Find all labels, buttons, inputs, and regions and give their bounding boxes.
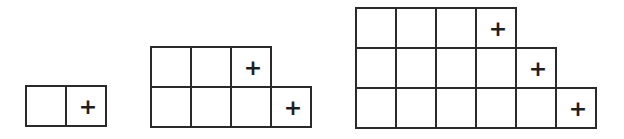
grid-cell: + [475,7,517,49]
grid-cell [355,87,397,129]
plus-icon: + [244,57,262,79]
grid-cell: + [515,47,557,89]
grid-cell [355,7,397,49]
grid-cell [435,7,477,49]
grid-cell [190,86,232,128]
grid-cell [230,86,272,128]
grid-cell [435,87,477,129]
grid-cell [435,47,477,89]
grid-cell [395,47,437,89]
grid-cell [150,86,192,128]
grid-cell [475,47,517,89]
grid-cell [395,87,437,129]
grid-cell: + [230,46,272,88]
grid-cell [190,46,232,88]
plus-icon: + [79,96,97,118]
grid-cell: + [270,86,312,128]
grid-cell [475,87,517,129]
grid-cell [25,85,67,127]
plus-icon: + [529,58,547,80]
grid-cell [395,7,437,49]
grid-cell [515,87,557,129]
grid-cell: + [65,85,107,127]
grid-cell: + [555,87,597,129]
plus-icon: + [569,98,587,120]
plus-icon: + [489,18,507,40]
plus-icon: + [284,97,302,119]
grid-cell [150,46,192,88]
grid-cell [355,47,397,89]
